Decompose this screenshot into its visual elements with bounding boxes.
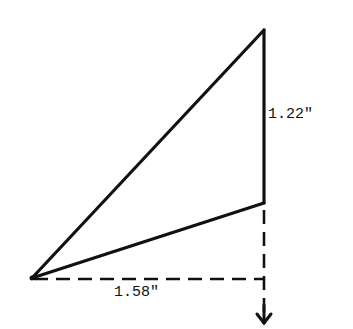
triangle-diagram xyxy=(0,0,353,329)
vertex-dot xyxy=(30,276,35,281)
vertical-dimension-label: 1.22" xyxy=(268,106,313,123)
arrow-down-icon xyxy=(257,305,271,323)
horizontal-dimension-label: 1.58" xyxy=(114,284,159,301)
